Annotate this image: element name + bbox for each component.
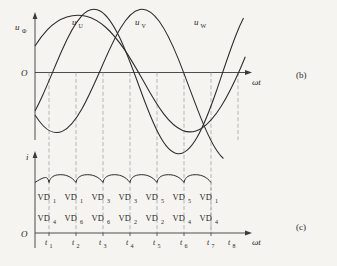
panel-label-b: (b) <box>296 70 307 80</box>
conduction-upper-6-sub: 5 <box>188 198 191 204</box>
conduction-cell-upper-3: VD 3 <box>92 192 111 204</box>
time-tick-1-sub: 1 <box>50 243 53 249</box>
curve-u-phase-v <box>35 9 223 158</box>
time-tick-2-label: t <box>72 238 75 247</box>
conduction-cell-upper-7: VD 1 <box>200 192 219 204</box>
conduction-upper-4-device: VD <box>119 192 131 202</box>
upper-x-axis-arrow <box>245 70 252 75</box>
rectified-current-waveform <box>35 175 211 183</box>
conduction-upper-5-device: VD <box>146 192 158 202</box>
waveform-diagram: O u Φ ωt u U u V u W <box>0 0 337 266</box>
time-tick-1: t 1 <box>45 238 53 249</box>
conduction-upper-5-sub: 5 <box>161 198 164 204</box>
upper-y-axis-label: u Φ <box>15 22 27 34</box>
conduction-lower-4-device: VD <box>119 213 131 223</box>
time-tick-8: t 8 <box>228 238 236 249</box>
lower-x-axis-label: ωt <box>252 237 261 247</box>
conduction-lower-6-device: VD <box>173 213 185 223</box>
conduction-upper-2-device: VD <box>65 192 77 202</box>
conduction-lower-1-device: VD <box>38 213 50 223</box>
time-tick-5: t 5 <box>153 238 161 249</box>
time-tick-1-label: t <box>45 238 48 247</box>
upper-y-axis-arrow <box>33 12 38 19</box>
time-tick-7-sub: 7 <box>212 243 215 249</box>
time-tick-6: t 6 <box>180 238 188 249</box>
conduction-upper-4-sub: 3 <box>134 198 137 204</box>
conduction-cell-lower-3: VD 6 <box>92 213 111 225</box>
curve-label-w-main: u <box>194 17 199 27</box>
conduction-cell-upper-1: VD 1 <box>38 192 57 204</box>
conduction-row-lower: VD 4 VD 6 VD 6 VD 2 VD 2 <box>38 213 219 225</box>
time-tick-7: t 7 <box>207 238 215 249</box>
conduction-lower-3-sub: 6 <box>107 219 110 225</box>
conduction-upper-2-sub: 1 <box>80 198 83 204</box>
lower-y-axis-label: i <box>26 152 29 162</box>
time-tick-7-label: t <box>207 238 210 247</box>
curve-label-w: u W <box>194 17 207 29</box>
conduction-cell-lower-5: VD 2 <box>146 213 165 225</box>
time-tick-8-sub: 8 <box>233 243 236 249</box>
conduction-cell-lower-6: VD 4 <box>173 213 192 225</box>
lower-x-axis-arrow <box>245 231 252 236</box>
conduction-upper-7-sub: 1 <box>215 198 218 204</box>
conduction-separators <box>35 183 211 234</box>
time-tick-3-sub: 3 <box>104 243 107 249</box>
conduction-cell-upper-2: VD 1 <box>65 192 84 204</box>
curve-u-phase-w <box>35 9 244 154</box>
conduction-lower-6-sub: 4 <box>188 219 191 225</box>
upper-gridlines <box>49 73 238 141</box>
lower-origin-label: O <box>21 229 28 239</box>
conduction-lower-7-device: VD <box>200 213 212 223</box>
conduction-lower-7-sub: 4 <box>215 219 218 225</box>
time-tick-5-sub: 5 <box>158 243 161 249</box>
conduction-lower-4-sub: 2 <box>134 219 137 225</box>
curve-u-phase-u <box>35 15 245 132</box>
upper-x-axis-label: ωt <box>252 77 261 87</box>
curve-label-u-main: u <box>72 17 77 27</box>
conduction-lower-1-sub: 4 <box>53 219 56 225</box>
panel-label-c: (c) <box>296 222 306 232</box>
conduction-upper-3-sub: 3 <box>107 198 110 204</box>
time-tick-4-label: t <box>126 238 129 247</box>
curve-label-w-sub: W <box>201 23 207 29</box>
upper-y-axis-label-main: u <box>15 22 20 32</box>
curve-label-v: u V <box>135 17 147 29</box>
curve-label-u-sub: U <box>79 23 84 29</box>
conduction-row-upper: VD 1 VD 1 VD 3 VD 3 VD 5 <box>38 192 219 204</box>
time-tick-3: t 3 <box>99 238 107 249</box>
conduction-cell-lower-7: VD 4 <box>200 213 219 225</box>
conduction-upper-3-device: VD <box>92 192 104 202</box>
time-tick-4: t 4 <box>126 238 134 249</box>
conduction-lower-5-device: VD <box>146 213 158 223</box>
curve-label-v-sub: V <box>142 23 147 29</box>
time-tick-labels: t 1 t 2 t 3 t 4 t 5 <box>45 238 236 249</box>
upper-y-axis-label-sub: Φ <box>22 28 27 34</box>
upper-origin-label: O <box>21 68 28 78</box>
time-tick-6-label: t <box>180 238 183 247</box>
conduction-cell-lower-4: VD 2 <box>119 213 138 225</box>
time-tick-3-label: t <box>99 238 102 247</box>
conduction-lower-2-sub: 6 <box>80 219 83 225</box>
lower-panel: O i ωt VD 1 VD 1 VD 3 VD <box>21 142 261 249</box>
curve-label-v-main: u <box>135 17 140 27</box>
time-tick-8-label: t <box>228 238 231 247</box>
time-tick-2: t 2 <box>72 238 80 249</box>
conduction-cell-lower-2: VD 6 <box>65 213 84 225</box>
conduction-cell-lower-1: VD 4 <box>38 213 57 225</box>
conduction-lower-3-device: VD <box>92 213 104 223</box>
time-tick-5-label: t <box>153 238 156 247</box>
conduction-cell-upper-6: VD 5 <box>173 192 192 204</box>
time-tick-6-sub: 6 <box>185 243 188 249</box>
conduction-lower-2-device: VD <box>65 213 77 223</box>
upper-panel: O u Φ ωt u U u V u W <box>15 9 261 158</box>
conduction-upper-6-device: VD <box>173 192 185 202</box>
conduction-upper-1-device: VD <box>38 192 50 202</box>
time-tick-2-sub: 2 <box>77 243 80 249</box>
lower-y-axis-arrow <box>33 151 38 158</box>
conduction-lower-5-sub: 2 <box>161 219 164 225</box>
time-tick-4-sub: 4 <box>131 243 134 249</box>
conduction-cell-upper-5: VD 5 <box>146 192 165 204</box>
figure-container: O u Φ ωt u U u V u W <box>0 0 337 266</box>
conduction-upper-7-device: VD <box>200 192 212 202</box>
conduction-cell-upper-4: VD 3 <box>119 192 138 204</box>
